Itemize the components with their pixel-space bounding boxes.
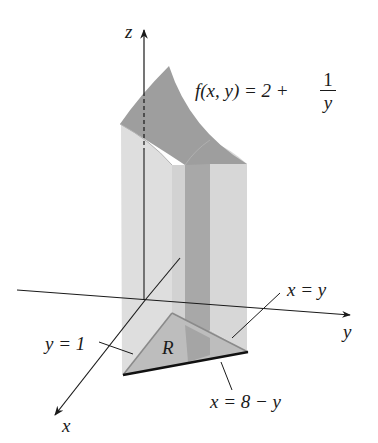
function-denominator: y — [320, 93, 336, 112]
y-axis-label: y — [343, 322, 351, 341]
leader-x-eq-8-minus-y — [221, 362, 232, 390]
region-r-label: R — [162, 338, 174, 357]
function-numerator: 1 — [320, 70, 336, 89]
solid-volume-diagram: z y x f(x, y) = 2 + 1 y R y = 1 x = y x … — [0, 0, 378, 443]
side-face-right — [210, 140, 247, 352]
diagram-canvas — [0, 0, 378, 443]
label-x-eq-8-minus-y: x = 8 − y — [210, 392, 281, 411]
label-x-eq-y: x = y — [287, 280, 326, 299]
function-label: f(x, y) = 2 + — [195, 81, 289, 100]
label-y-eq-1: y = 1 — [45, 334, 85, 353]
z-axis-label: z — [125, 22, 132, 41]
x-axis-label: x — [62, 416, 70, 435]
